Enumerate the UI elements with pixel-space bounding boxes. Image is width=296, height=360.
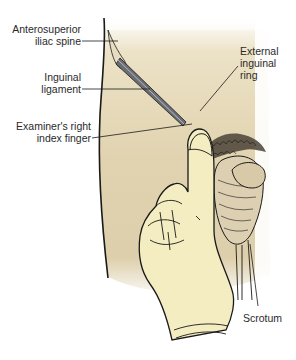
label-external-inguinal-ring: External inguinal ring <box>240 45 279 81</box>
label-examiner-index-finger: Examiner's right index finger <box>16 120 91 144</box>
label-scrotum: Scrotum <box>243 312 282 324</box>
label-inguinal-ligament: Inguinal ligament <box>41 71 81 95</box>
label-anterosuperior-iliac-spine: Anterosuperior iliac spine <box>12 23 81 47</box>
